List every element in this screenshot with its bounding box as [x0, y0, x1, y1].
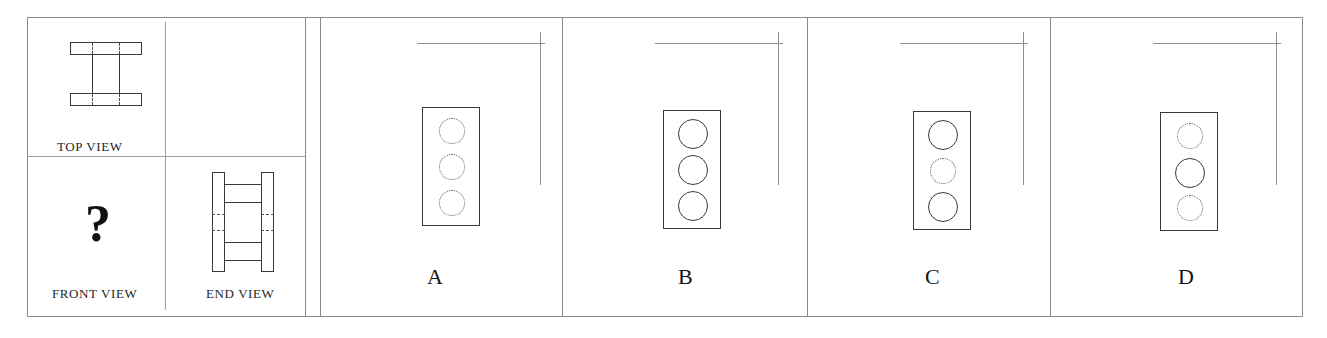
option-c-circle-3 — [928, 192, 958, 222]
top-view-drawing — [70, 42, 142, 106]
option-d-circle-1 — [1177, 123, 1203, 149]
top-view-flange-upper — [70, 42, 142, 55]
option-b-circle-3 — [678, 191, 708, 221]
option-a-outline — [422, 107, 480, 226]
option-a-circle-1 — [439, 118, 465, 144]
end-view-web-line-3 — [224, 242, 262, 243]
option-b-corner-mark-horizontal — [655, 43, 783, 44]
end-view-flange-right — [261, 172, 274, 272]
problem-horizontal-divider — [28, 156, 305, 157]
top-view-hidden-tick-3 — [92, 94, 93, 105]
top-view-hidden-tick-4 — [119, 94, 120, 105]
top-view-label: TOP VIEW — [57, 139, 123, 155]
option-d-letter: D — [1178, 264, 1194, 290]
end-view-label: END VIEW — [206, 286, 274, 302]
option-d-circle-3 — [1177, 195, 1203, 221]
panel-divider-5 — [1050, 17, 1051, 317]
end-view-web-edge-right — [261, 172, 262, 272]
top-view-web-left — [92, 54, 93, 94]
front-view-label: FRONT VIEW — [52, 286, 137, 302]
option-a-circle-3 — [439, 190, 465, 216]
panel-divider-4 — [807, 17, 808, 317]
end-view-drawing — [212, 172, 274, 272]
end-view-hidden-dash-2 — [261, 214, 274, 215]
option-b-corner-mark-vertical — [778, 32, 779, 185]
question-sheet: TOP VIEW ? FRONT VIEW END VIEW — [0, 0, 1327, 338]
option-c-corner-mark-vertical — [1023, 32, 1024, 185]
top-view-hidden-tick-1 — [92, 43, 93, 54]
option-d-outline — [1160, 112, 1218, 231]
option-b-circle-1 — [678, 119, 708, 149]
end-view-hidden-dash-3 — [212, 230, 225, 231]
end-view-web-edge-left — [224, 172, 225, 272]
option-c-circle-2 — [930, 158, 956, 184]
option-b-letter: B — [678, 264, 693, 290]
panel-divider-2 — [320, 17, 321, 317]
option-c-letter: C — [925, 264, 940, 290]
end-view-web-line-4 — [224, 260, 262, 261]
option-b-outline — [663, 110, 721, 229]
option-b-circle-2 — [678, 155, 708, 185]
end-view-web-line-1 — [224, 184, 262, 185]
option-c-corner-mark-horizontal — [900, 43, 1028, 44]
option-c-outline — [913, 111, 971, 230]
option-d-corner-mark-vertical — [1276, 32, 1277, 185]
missing-front-view-marker: ? — [85, 198, 111, 250]
top-view-flange-lower — [70, 93, 142, 106]
end-view-hidden-dash-4 — [261, 230, 274, 231]
option-a-corner-mark-vertical — [540, 32, 541, 185]
option-d-corner-mark-horizontal — [1153, 43, 1281, 44]
option-a-corner-mark-horizontal — [417, 43, 545, 44]
option-a-letter: A — [427, 264, 443, 290]
top-view-web-right — [119, 54, 120, 94]
problem-vertical-divider — [165, 22, 166, 310]
option-c-circle-1 — [928, 120, 958, 150]
panel-divider-3 — [562, 17, 563, 317]
option-d-circle-2 — [1175, 158, 1205, 188]
panel-divider-1 — [305, 17, 306, 317]
end-view-hidden-dash-1 — [212, 214, 225, 215]
option-a-circle-2 — [439, 154, 465, 180]
end-view-web-line-2 — [224, 202, 262, 203]
top-view-hidden-tick-2 — [119, 43, 120, 54]
